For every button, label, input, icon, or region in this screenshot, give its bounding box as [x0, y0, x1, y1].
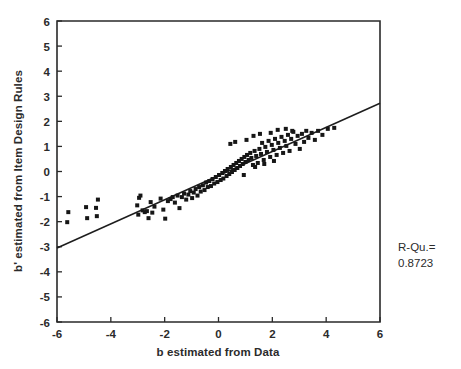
data-point	[267, 139, 271, 143]
data-point	[253, 149, 257, 153]
data-point	[316, 129, 320, 133]
data-point	[300, 132, 304, 136]
data-point	[276, 141, 280, 145]
data-point	[281, 151, 285, 155]
data-point	[192, 191, 196, 195]
data-point	[262, 158, 266, 162]
data-point	[248, 151, 252, 155]
data-point	[302, 140, 306, 144]
data-point	[273, 137, 277, 141]
data-point	[260, 141, 264, 145]
data-point	[298, 147, 302, 151]
x-axis-label: b estimated from Data	[157, 346, 280, 358]
data-point	[94, 206, 98, 210]
y-tick-label: -2	[40, 216, 50, 228]
data-point	[257, 147, 261, 151]
data-point	[159, 197, 163, 201]
y-tick-label: 4	[44, 66, 51, 78]
data-point	[289, 137, 293, 141]
data-point	[190, 196, 194, 200]
data-point	[320, 133, 324, 137]
data-point	[284, 127, 288, 131]
data-point	[173, 201, 177, 205]
plot-frame	[57, 21, 380, 322]
y-tick-label: -6	[40, 317, 50, 329]
r-squared-label: R-Qu.=	[398, 241, 436, 253]
y-tick-label: 6	[44, 16, 50, 28]
data-point	[180, 195, 184, 199]
data-point	[272, 159, 276, 163]
data-point	[284, 144, 288, 148]
y-tick-labels: -6-5-4-3-2-10123456	[40, 16, 51, 329]
x-tick-label: -6	[52, 328, 62, 340]
data-point	[286, 133, 290, 137]
data-point	[66, 210, 70, 214]
data-point	[65, 220, 69, 224]
r-squared-value: 0.8723	[398, 257, 433, 269]
y-tick-label: -1	[40, 191, 51, 203]
x-tick-label: 0	[215, 328, 221, 340]
y-tick-label: -5	[40, 291, 51, 303]
data-point	[194, 187, 198, 191]
data-point	[95, 214, 99, 218]
data-point	[147, 216, 151, 220]
data-point	[275, 153, 279, 157]
data-point	[271, 148, 275, 152]
data-point	[176, 194, 180, 198]
data-point	[326, 127, 330, 131]
data-point	[138, 194, 142, 198]
y-tick-label: -3	[40, 241, 50, 253]
y-tick-label: 5	[44, 41, 51, 53]
data-point	[304, 129, 308, 133]
x-tick-label: 6	[377, 328, 383, 340]
data-point	[270, 143, 274, 147]
data-point	[310, 131, 314, 135]
y-tick-label: 2	[44, 116, 50, 128]
data-point	[84, 205, 88, 209]
data-point	[136, 213, 140, 217]
data-point	[278, 146, 282, 150]
data-point	[254, 154, 258, 158]
data-point	[171, 195, 175, 199]
data-point	[313, 138, 317, 142]
data-point	[283, 139, 287, 143]
data-point	[228, 142, 232, 146]
x-tick-label: -2	[160, 328, 170, 340]
data-point	[258, 132, 262, 136]
data-point	[96, 198, 100, 202]
x-tick-label: -4	[106, 328, 117, 340]
data-point	[279, 135, 283, 139]
y-tick-label: 1	[44, 141, 51, 153]
data-point	[269, 131, 273, 135]
data-point	[249, 156, 253, 160]
y-axis-label: b' estimated from Item Design Rules	[12, 70, 24, 272]
data-point	[150, 211, 154, 215]
y-tick-label: 3	[44, 91, 50, 103]
data-point	[251, 134, 255, 138]
data-point	[306, 136, 310, 140]
data-point	[268, 155, 272, 159]
x-tick-label: 2	[269, 328, 275, 340]
data-point	[161, 208, 165, 212]
data-point	[149, 200, 153, 204]
data-point	[199, 190, 203, 194]
data-point	[163, 217, 167, 221]
data-point	[85, 216, 89, 220]
data-point	[233, 140, 237, 144]
data-point	[244, 138, 248, 142]
data-point	[256, 161, 260, 165]
data-point	[332, 126, 336, 130]
data-point	[290, 129, 294, 133]
data-point	[177, 206, 181, 210]
data-point	[196, 194, 200, 198]
data-point	[262, 162, 266, 166]
data-point	[265, 150, 269, 154]
data-point	[288, 149, 292, 153]
x-tick-label: 4	[323, 328, 330, 340]
y-tick-label: 0	[44, 166, 50, 178]
data-point	[135, 203, 139, 207]
data-point	[188, 189, 192, 193]
scatter-plot-figure: -6-4-20246 -6-5-4-3-2-10123456 b estimat…	[0, 0, 461, 369]
data-point	[293, 142, 297, 146]
data-point	[259, 152, 263, 156]
